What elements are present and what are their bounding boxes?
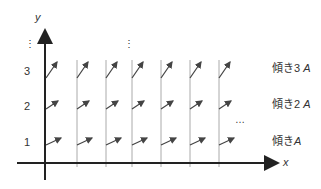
grid-lines xyxy=(77,60,219,167)
vertical-ellipsis-left: ⋮ xyxy=(25,39,35,49)
slope-label-A: 傾きA xyxy=(272,136,301,147)
slope-field-diagram xyxy=(0,0,321,189)
slope-label-2A: 傾き2 A xyxy=(272,99,311,110)
y-tick-1: 1 xyxy=(24,137,30,148)
x-axis-label: x xyxy=(283,157,289,168)
vertical-ellipsis-mid: ⋮ xyxy=(124,39,134,49)
horizontal-ellipsis: … xyxy=(235,115,245,125)
y-tick-2: 2 xyxy=(24,101,30,112)
y-axis-label: y xyxy=(35,12,41,23)
slope-arrows xyxy=(46,62,234,145)
slope-label-3A: 傾き3 A xyxy=(272,63,311,74)
y-tick-3: 3 xyxy=(24,66,30,77)
